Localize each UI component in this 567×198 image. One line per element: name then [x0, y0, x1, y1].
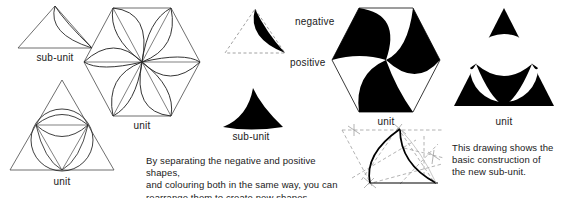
construction-arc-outer — [369, 129, 400, 183]
caption-subunit-top-left: sub-unit — [36, 52, 73, 63]
outline-subunit-triangle-svg — [16, 4, 94, 50]
caption-subunit-positive: sub-unit — [232, 131, 269, 142]
triangle-medial-outline — [36, 125, 88, 170]
figure-negative-shape — [222, 6, 288, 58]
outline-triangle-unit-svg — [8, 78, 116, 174]
caption-unit-hexagon-outline: unit — [134, 120, 151, 131]
triangle-outline — [18, 6, 92, 48]
construction-detail-svg — [338, 124, 448, 194]
figure-construction-detail — [338, 124, 448, 194]
positive-curved-triangle-fill — [223, 88, 283, 130]
side-note-text: This drawing shows the basic constructio… — [452, 142, 564, 179]
construction-guide-lines — [342, 128, 444, 186]
arc-lens-upper — [36, 115, 88, 126]
caption-unit-triangle-outline: unit — [54, 176, 71, 187]
positive-shape-svg — [220, 86, 286, 132]
body-note-text: By separating the negative and positive … — [146, 155, 342, 198]
figure-solid-triangle-unit — [452, 6, 556, 114]
caption-unit-triangle-solid: unit — [496, 116, 513, 127]
figure-solid-hexagon-unit — [332, 6, 440, 114]
solid-hexagon-unit-svg — [332, 6, 440, 114]
figure-outline-triangle-unit — [8, 78, 116, 174]
figure-outline-subunit-triangle — [16, 4, 94, 50]
negative-shape-svg — [222, 6, 288, 58]
label-negative: negative — [295, 16, 334, 27]
diagram-canvas: sub-unit — [0, 0, 567, 198]
solid-triangle-unit-svg — [452, 6, 556, 114]
figure-positive-shape — [220, 86, 286, 132]
construction-arc-faint — [400, 129, 436, 183]
label-positive: positive — [290, 57, 326, 68]
construction-arc-inner — [400, 129, 436, 183]
arc-lens-lower — [36, 125, 88, 137]
